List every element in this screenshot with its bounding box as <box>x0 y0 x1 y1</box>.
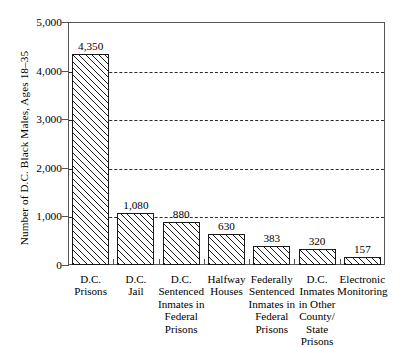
y-tick-label: 4,000 <box>6 65 62 77</box>
y-tick-label: 0 <box>6 259 62 271</box>
y-tick-label: 3,000 <box>6 113 62 125</box>
y-tick-label: 5,000 <box>6 16 62 28</box>
bar-value-label: 880 <box>151 208 211 220</box>
x-tick-mark <box>249 259 250 265</box>
x-tick-mark <box>294 259 295 265</box>
bar-value-label: 4,350 <box>61 40 121 52</box>
bar <box>253 246 290 265</box>
bar <box>299 249 336 265</box>
x-tick-mark <box>113 259 114 265</box>
bar <box>72 54 109 265</box>
y-tick-mark <box>62 265 69 266</box>
bar <box>208 234 245 265</box>
y-tick-label: 2,000 <box>6 162 62 174</box>
x-category-label: Electronic Monitoring <box>333 273 391 298</box>
bar <box>117 213 154 265</box>
bar-chart: Number of D.C. Black Males, Ages 18–35 0… <box>0 0 418 347</box>
y-axis-title: Number of D.C. Black Males, Ages 18–35 <box>16 18 32 278</box>
x-tick-mark <box>159 259 160 265</box>
x-tick-mark <box>204 259 205 265</box>
x-tick-mark <box>340 259 341 265</box>
bar-value-label: 630 <box>197 220 257 232</box>
bar-value-label: 157 <box>332 243 392 255</box>
bar <box>163 222 200 265</box>
y-tick-label: 1,000 <box>6 210 62 222</box>
bar <box>344 257 381 265</box>
